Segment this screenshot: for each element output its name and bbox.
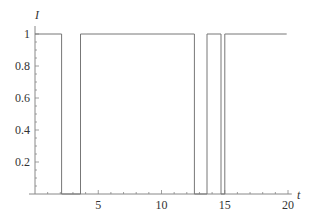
x-tick-label: 10: [156, 198, 168, 212]
y-tick-label: 0.6: [15, 91, 30, 105]
x-axis-label: t: [297, 188, 301, 202]
y-tick-label: 0.2: [15, 155, 30, 169]
series-line: [35, 34, 287, 194]
axes: 51015200.20.40.60.81: [15, 26, 294, 212]
plot-area: [35, 34, 287, 194]
x-tick-label: 15: [219, 198, 231, 212]
y-tick-label: 0.4: [15, 123, 30, 137]
y-axis-label: I: [34, 8, 40, 22]
x-tick-label: 5: [95, 198, 101, 212]
step-chart: 51015200.20.40.60.81 I t: [0, 0, 321, 215]
y-tick-label: 1: [24, 27, 30, 41]
y-tick-label: 0.8: [15, 59, 30, 73]
x-tick-label: 20: [282, 198, 294, 212]
